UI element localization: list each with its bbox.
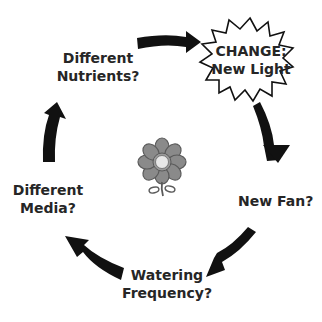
node-label: Media? bbox=[8, 199, 88, 217]
node-label: Frequency? bbox=[122, 284, 212, 302]
node-label: Watering bbox=[122, 266, 212, 284]
node-label: Different bbox=[8, 181, 88, 199]
node-watering-frequency: Watering Frequency? bbox=[122, 266, 212, 302]
arrow-icon bbox=[137, 31, 201, 53]
change-value: New Light bbox=[207, 60, 295, 78]
change-title: CHANGE: bbox=[207, 42, 295, 60]
arrow-icon bbox=[43, 102, 66, 162]
change-label: CHANGE: New Light bbox=[207, 42, 295, 78]
arrow-icon bbox=[65, 236, 124, 280]
node-different-media: Different Media? bbox=[8, 181, 88, 217]
node-label: Nutrients? bbox=[52, 67, 144, 85]
node-new-fan: New Fan? bbox=[238, 192, 310, 210]
node-label: New Fan? bbox=[238, 192, 310, 210]
flower-icon bbox=[138, 138, 186, 196]
arrow-icon bbox=[253, 102, 290, 163]
node-label: Different bbox=[52, 49, 144, 67]
cycle-diagram: CHANGE: New Light New Fan? Watering Freq… bbox=[0, 0, 322, 322]
node-different-nutrients: Different Nutrients? bbox=[52, 49, 144, 85]
arrow-icon bbox=[206, 227, 256, 277]
